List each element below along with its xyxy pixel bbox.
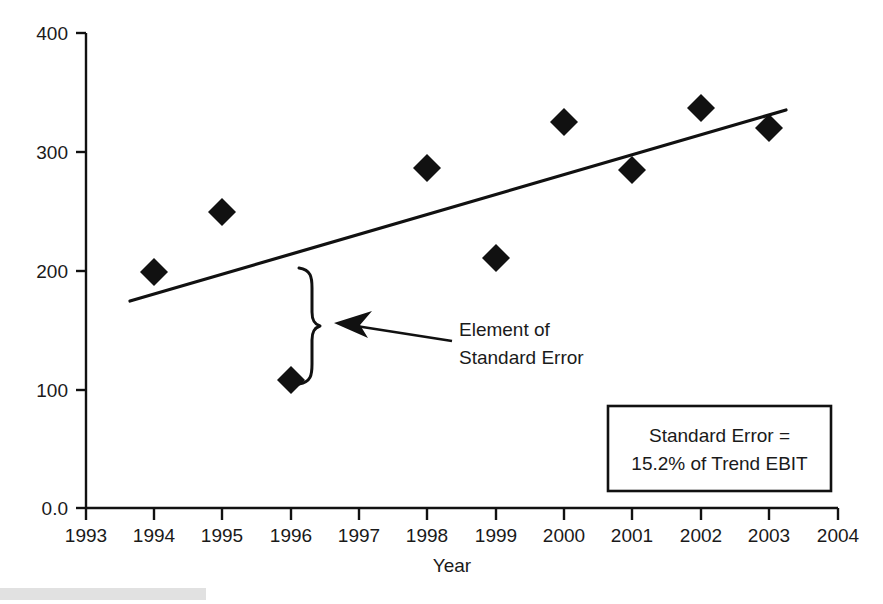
y-tick-label-400: 400 (36, 23, 68, 44)
x-tick-label-1994: 1994 (133, 525, 176, 546)
x-tick-label-1996: 1996 (270, 525, 312, 546)
x-axis-tick-labels: 1993 1994 1995 1996 1997 1998 1999 2000 … (65, 525, 860, 546)
standard-error-legend-box: Standard Error = 15.2% of Trend EBIT (608, 406, 831, 491)
legend-box-border (608, 406, 831, 491)
x-axis-ticks (86, 508, 838, 520)
x-tick-label-2004: 2004 (817, 525, 860, 546)
y-tick-label-0: 0.0 (42, 498, 68, 519)
x-tick-label-2003: 2003 (748, 525, 790, 546)
x-tick-label-2000: 2000 (543, 525, 585, 546)
data-point-2000 (550, 108, 578, 136)
annotation-line-2: Standard Error (459, 347, 584, 368)
y-axis-tick-labels: 400 300 200 100 0.0 (36, 23, 68, 519)
legend-line-1: Standard Error = (649, 425, 790, 446)
legend-line-2: 15.2% of Trend EBIT (631, 453, 808, 474)
data-point-1998 (413, 154, 441, 182)
y-axis-ticks (76, 33, 86, 508)
x-tick-label-1993: 1993 (65, 525, 107, 546)
y-tick-label-200: 200 (36, 261, 68, 282)
annotation-label: Element of Standard Error (459, 319, 584, 368)
ebit-trend-scatter-chart: 400 300 200 100 0.0 1993 1994 1995 1 (0, 0, 883, 604)
x-tick-label-1997: 1997 (338, 525, 380, 546)
data-point-2001 (618, 156, 646, 184)
x-tick-label-1995: 1995 (201, 525, 243, 546)
x-tick-label-2001: 2001 (611, 525, 653, 546)
x-tick-label-1999: 1999 (475, 525, 517, 546)
standard-error-brace (299, 268, 320, 384)
annotation-line-1: Element of (459, 319, 551, 340)
y-tick-label-100: 100 (36, 380, 68, 401)
data-point-1996 (277, 366, 305, 394)
scan-artifact-strip (0, 588, 206, 600)
arrow-head (334, 311, 372, 338)
x-tick-label-2002: 2002 (680, 525, 722, 546)
arrow-shaft (356, 326, 452, 341)
y-tick-label-300: 300 (36, 142, 68, 163)
chart-container: 400 300 200 100 0.0 1993 1994 1995 1 (0, 0, 883, 604)
data-point-1994 (140, 258, 168, 286)
x-tick-label-1998: 1998 (406, 525, 448, 546)
data-point-2002 (687, 94, 715, 122)
x-axis-title: Year (433, 555, 472, 576)
annotation-arrow (334, 311, 452, 341)
data-point-1995 (208, 198, 236, 226)
data-point-1999 (482, 244, 510, 272)
